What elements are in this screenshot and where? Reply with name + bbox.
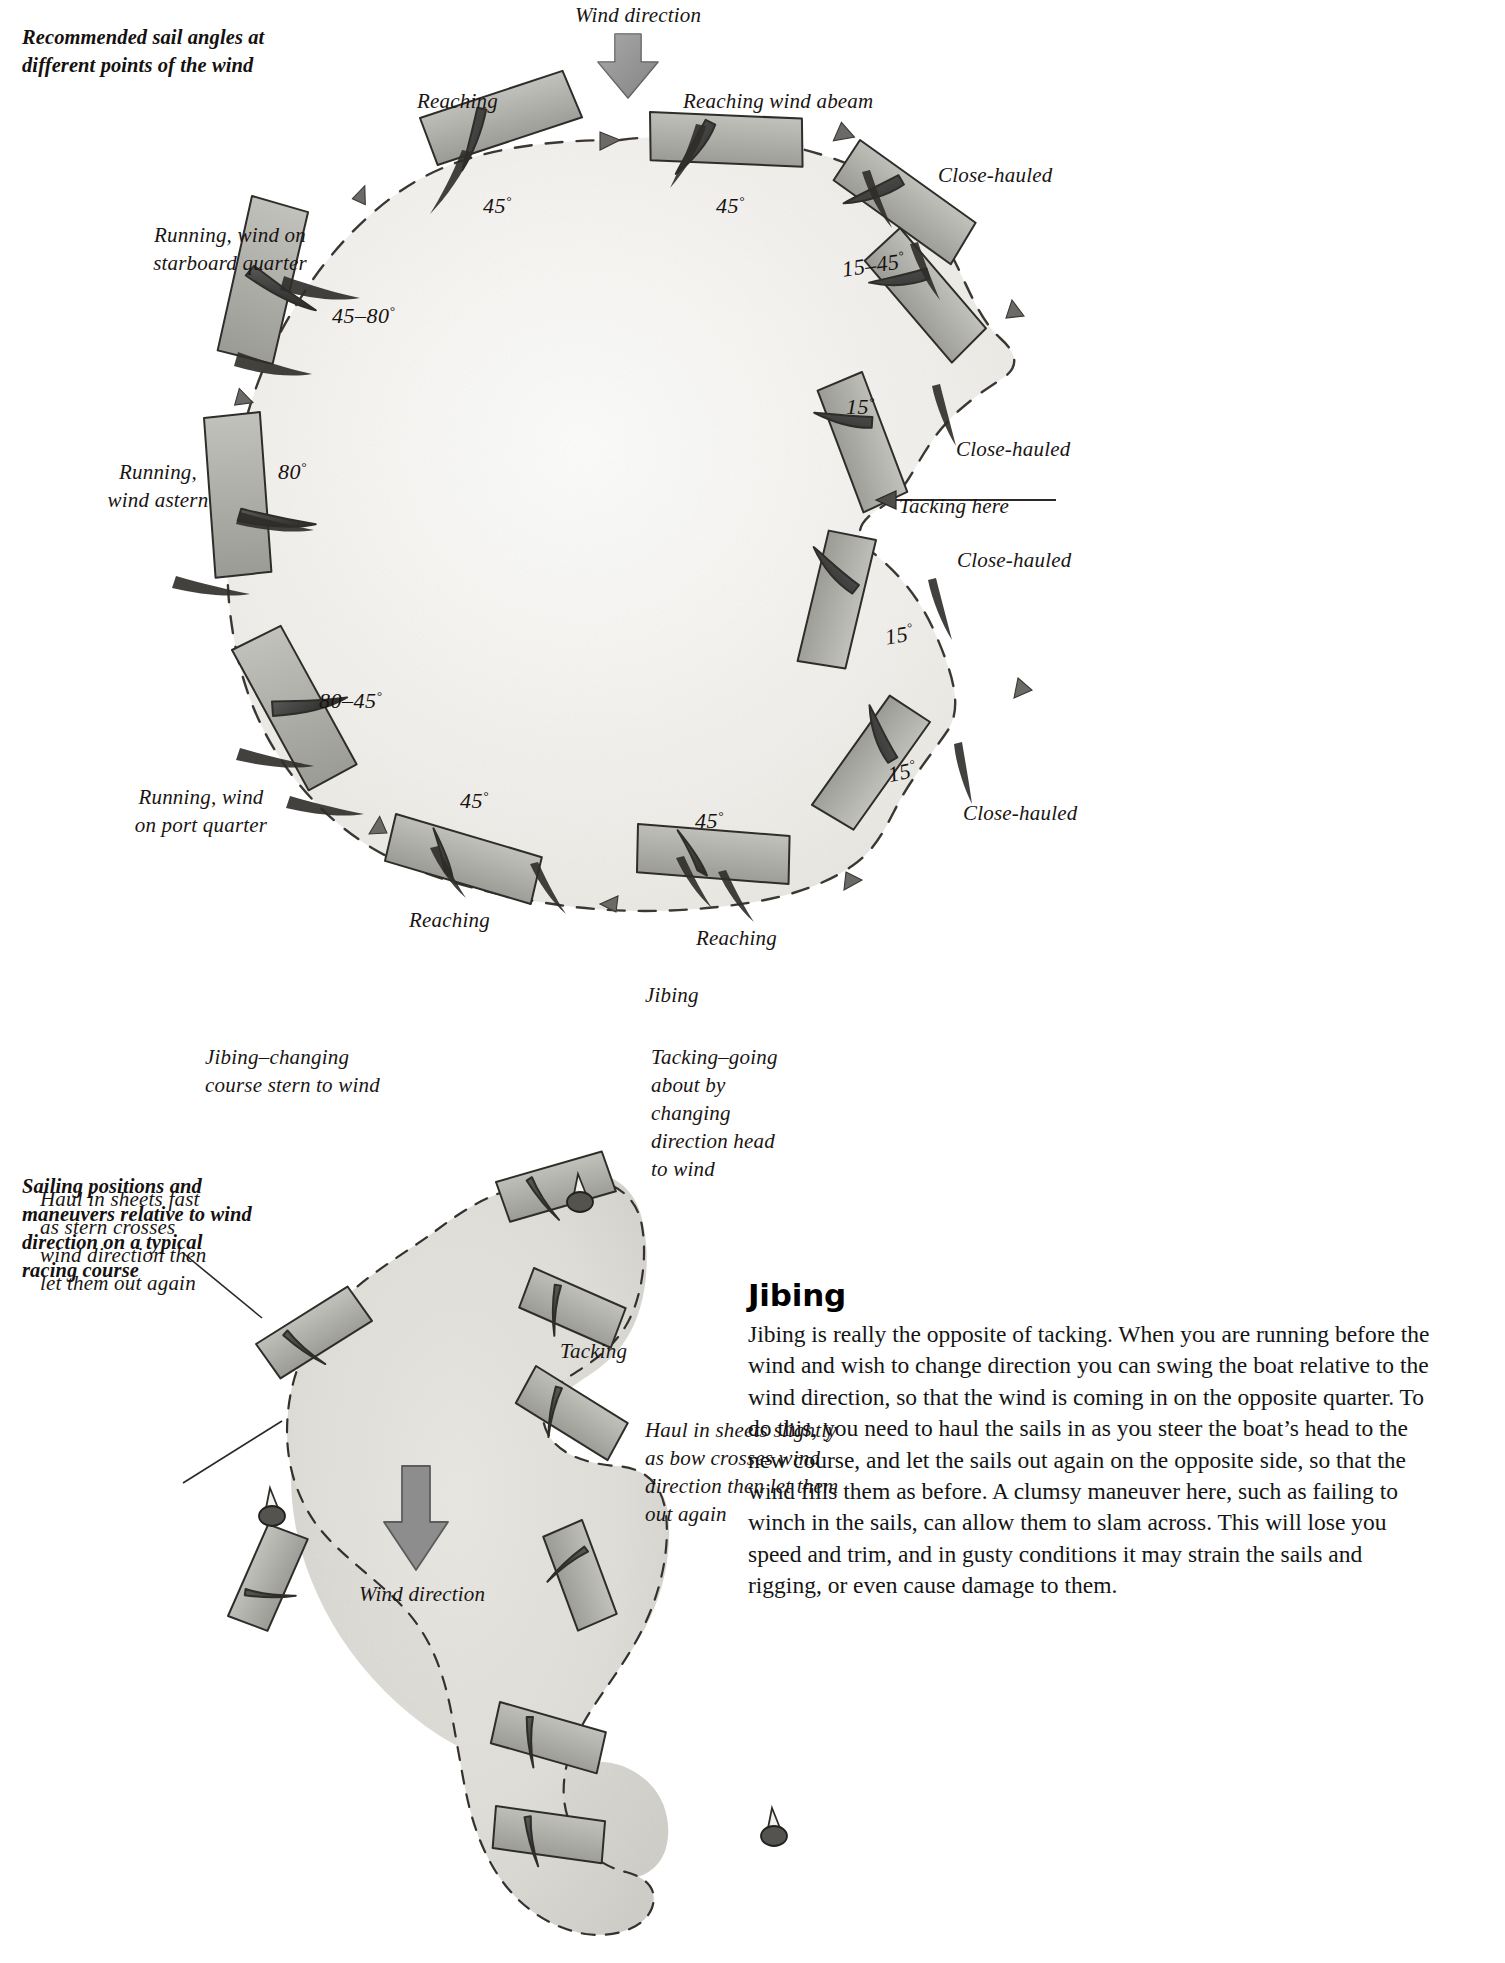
page-canvas: Recommended sail angles at different poi… [0, 0, 1505, 1963]
article-jibing: Jibing Jibing is really the opposite of … [748, 1278, 1438, 1602]
figure-racing-course: Sailing positions and maneuvers relative… [0, 0, 1505, 1963]
label-jibing: Jibing [645, 981, 699, 1009]
article-heading: Jibing [748, 1278, 1438, 1312]
label-haul-in-sheets-fast: Haul in sheets fast as stern crosses win… [40, 1185, 206, 1297]
label-jibing-changing-course: Jibing–changing course stern to wind [205, 1043, 380, 1099]
article-body: Jibing is really the opposite of tacking… [748, 1319, 1438, 1602]
label-tacking-going-about: Tacking–going about by changing directio… [651, 1043, 778, 1183]
figure2-boats [0, 0, 1505, 1963]
label-tacking: Tacking [560, 1337, 627, 1365]
